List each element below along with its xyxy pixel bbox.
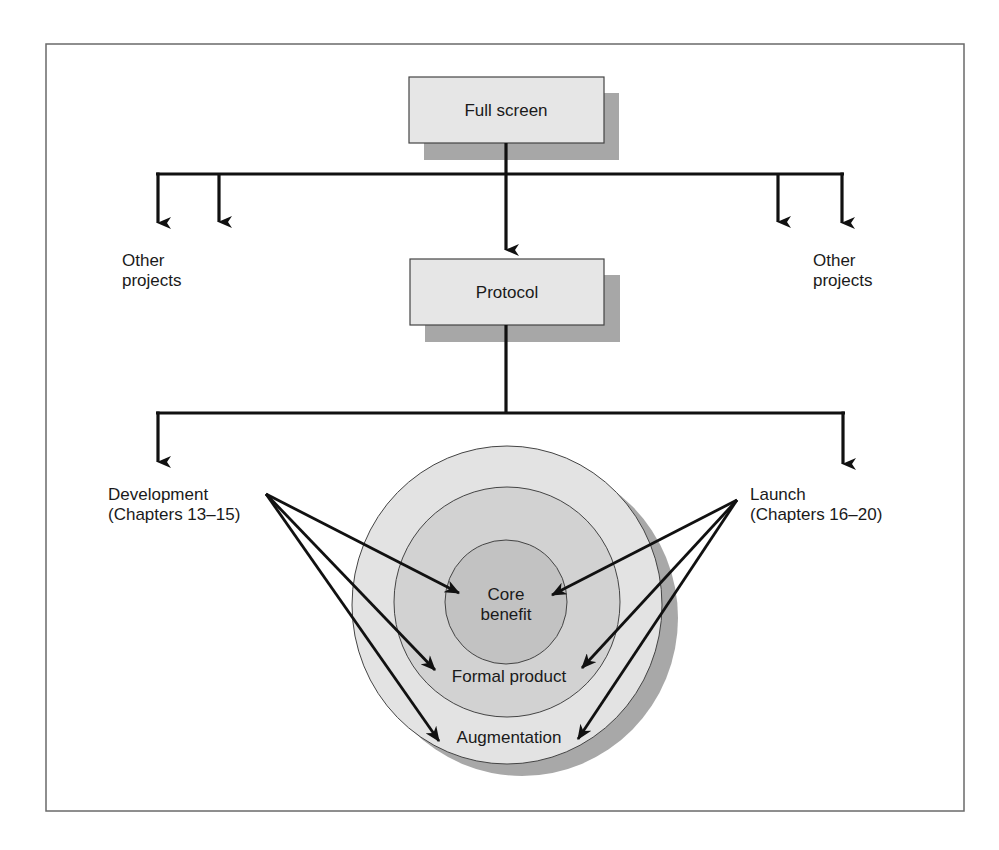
launch-chapters: (Chapters 16–20) [750,505,882,524]
full-screen-box: Full screen [409,77,619,160]
product-rings: Core benefit Formal product Augmentation [352,446,678,776]
protocol-box: Protocol [410,259,620,342]
core-benefit-line2: benefit [480,605,531,624]
development-label: Development (Chapters 13–15) [108,485,240,524]
protocol-label: Protocol [476,283,538,302]
product-protocol-diagram: Full screen Other projects Other project… [0,0,999,850]
other-projects-right: Other projects [813,251,873,290]
core-benefit-line1: Core [488,585,525,604]
other-projects-left: Other projects [122,251,182,290]
formal-product-label: Formal product [452,667,567,686]
development-chapters: (Chapters 13–15) [108,505,240,524]
development-title: Development [108,485,208,504]
other-projects-left-line1: Other [122,251,165,270]
other-projects-left-line2: projects [122,271,182,290]
launch-label: Launch (Chapters 16–20) [750,485,882,524]
launch-title: Launch [750,485,806,504]
other-projects-right-line1: Other [813,251,856,270]
other-projects-right-line2: projects [813,271,873,290]
lower-branch-connectors [156,325,845,464]
full-screen-label: Full screen [464,101,547,120]
augmentation-label: Augmentation [457,728,562,747]
